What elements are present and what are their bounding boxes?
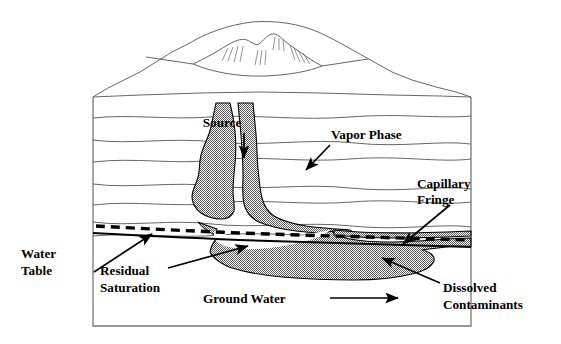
label-residual-saturation-line1: Residual <box>100 263 149 278</box>
diagram-canvas: Source Vapor Phase Capillary Fringe Wate… <box>0 0 561 344</box>
label-vapor-phase: Vapor Phase <box>331 127 402 142</box>
cross-section-figure: Source Vapor Phase Capillary Fringe Wate… <box>0 0 561 344</box>
vapor-phase-arrow <box>306 145 330 170</box>
vapor-plume-right-lobe <box>238 103 351 234</box>
label-water-table-line2: Table <box>21 263 52 278</box>
label-dissolved-line2: Contaminants <box>443 297 523 312</box>
label-ground-water: Ground Water <box>203 291 286 306</box>
label-residual-saturation-line2: Saturation <box>100 280 161 295</box>
label-water-table-line1: Water <box>21 246 56 261</box>
label-capillary-fringe-line2: Fringe <box>417 192 455 207</box>
label-capillary-fringe-line1: Capillary <box>417 176 471 191</box>
label-source: Source <box>203 115 242 130</box>
label-dissolved-line1: Dissolved <box>443 280 497 295</box>
stratigraphic-layers <box>93 116 471 237</box>
label-group: Source Vapor Phase Capillary Fringe Wate… <box>21 115 523 312</box>
